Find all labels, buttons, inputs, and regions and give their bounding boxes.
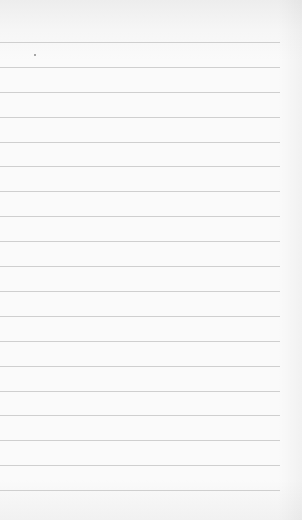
ruled-line xyxy=(0,341,280,342)
ruled-line xyxy=(0,440,280,441)
ruled-line xyxy=(0,92,280,93)
ruled-line xyxy=(0,191,280,192)
ruled-line xyxy=(0,42,280,43)
ruled-line xyxy=(0,142,280,143)
ruled-line xyxy=(0,391,280,392)
ruled-line xyxy=(0,67,280,68)
ruled-line xyxy=(0,266,280,267)
lined-paper xyxy=(0,0,302,520)
ink-dot xyxy=(34,54,36,56)
ruled-line xyxy=(0,117,280,118)
ruled-line xyxy=(0,490,280,491)
ruled-line xyxy=(0,291,280,292)
ruled-line xyxy=(0,415,280,416)
ruled-line xyxy=(0,241,280,242)
ruled-line xyxy=(0,216,280,217)
ruled-line xyxy=(0,465,280,466)
ruled-line xyxy=(0,366,280,367)
ruled-line xyxy=(0,316,280,317)
ruled-line xyxy=(0,166,280,167)
